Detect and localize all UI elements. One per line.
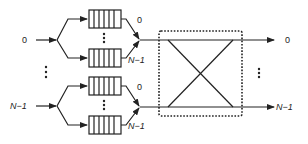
- output-n1-label: N−1: [276, 103, 293, 112]
- input-0-group: [36, 10, 139, 67]
- voq-n1-label-n1: N−1: [128, 122, 145, 131]
- voq-0-label-n1: N−1: [128, 56, 145, 65]
- voq-switch-diagram: [0, 0, 308, 144]
- input-0-label: 0: [22, 36, 27, 45]
- input-n1-group: [36, 77, 139, 134]
- voq-0-label-0: 0: [137, 16, 142, 25]
- queue-n1-0: [89, 77, 121, 95]
- output-0-label: 0: [285, 36, 290, 45]
- input-n1-label: N−1: [10, 102, 27, 111]
- queue-0-n1: [89, 49, 121, 67]
- input-0-branch-top: [57, 19, 87, 40]
- queue-0-0: [89, 10, 121, 28]
- queue-n1-n1: [89, 116, 121, 134]
- voq-n1-label-0: 0: [137, 83, 142, 92]
- input-0-branch-bottom: [57, 40, 87, 58]
